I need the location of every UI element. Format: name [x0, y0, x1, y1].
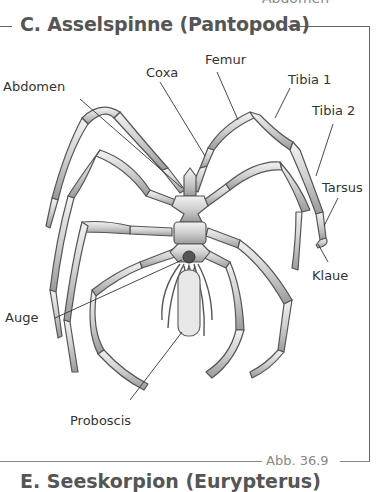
figure-number: Abb. 36.9: [266, 453, 329, 468]
label-tibia-2: Tibia 2: [312, 103, 355, 118]
eye-icon: [183, 251, 195, 263]
label-auge: Auge: [5, 310, 38, 325]
label-abdomen: Abdomen: [3, 79, 65, 94]
label-klaue: Klaue: [312, 268, 348, 283]
label-tibia-1: Tibia 1: [288, 72, 331, 87]
label-proboscis: Proboscis: [70, 413, 131, 428]
next-section-title: E. Seeskorpion (Eurypterus): [20, 470, 321, 492]
label-femur: Femur: [205, 52, 246, 67]
proboscis-shape: [178, 270, 200, 336]
label-coxa: Coxa: [146, 65, 178, 80]
label-tarsus: Tarsus: [322, 180, 363, 195]
